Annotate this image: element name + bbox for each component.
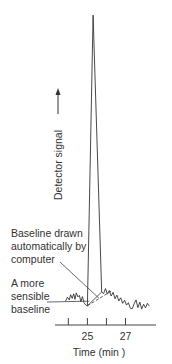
annotation-text: baseline	[11, 303, 50, 315]
annotation-leader-line	[47, 301, 89, 302]
annotation-text: computer	[11, 253, 55, 265]
y-axis-label-group: Detector signal	[52, 130, 64, 200]
x-tick-label: 25	[82, 330, 94, 342]
annotation-text: automatically by	[11, 240, 87, 252]
x-tick-label: 27	[120, 330, 132, 342]
y-axis-arrow-icon	[56, 88, 61, 114]
series-chromatogram	[66, 15, 150, 309]
chromatogram-chart: 2527 Time (min ) Detector signal Baselin…	[0, 0, 172, 364]
y-axis-label: Detector signal	[52, 130, 64, 200]
annotation-text: sensible	[11, 290, 50, 302]
annotation-leader-line	[60, 262, 99, 298]
annotation-text: Baseline drawn	[11, 227, 83, 239]
x-axis-label: Time (min )	[73, 346, 126, 358]
annotation-text: A more	[11, 277, 44, 289]
